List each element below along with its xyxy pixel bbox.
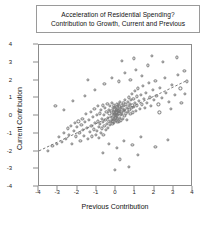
scatter-point xyxy=(99,108,102,111)
scatter-point xyxy=(159,86,162,89)
scatter-point xyxy=(51,145,54,148)
scatter-point xyxy=(69,124,72,127)
scatter-point xyxy=(66,127,69,130)
scatter-point xyxy=(108,142,111,145)
scatter-point xyxy=(101,152,104,155)
y-tick-label: 2 xyxy=(0,77,12,83)
y-tick-label: -4 xyxy=(0,183,12,189)
scatter-point xyxy=(184,92,187,95)
scatter-point xyxy=(183,69,186,72)
y-tick-label: 4 xyxy=(0,41,12,47)
scatter-point xyxy=(97,137,100,140)
scatter-point xyxy=(86,137,89,140)
scatter-point xyxy=(138,99,141,102)
scatter-point xyxy=(138,107,141,110)
scatter-point xyxy=(62,108,65,111)
scatter-point xyxy=(133,57,136,60)
y-tick-label: -3 xyxy=(0,165,12,171)
x-tick-mark xyxy=(115,186,116,191)
scatter-point xyxy=(93,89,96,92)
scatter-point xyxy=(147,82,150,85)
scatter-point xyxy=(175,56,178,59)
scatter-point xyxy=(162,60,165,63)
scatter-point xyxy=(127,165,130,168)
scatter-point xyxy=(102,133,105,136)
scatter-point xyxy=(91,115,94,118)
scatter-point xyxy=(75,125,78,128)
y-tick-label: 3 xyxy=(0,59,12,65)
scatter-point xyxy=(129,78,132,81)
scatter-point xyxy=(186,80,189,83)
scatter-points xyxy=(39,45,191,185)
scatter-point xyxy=(133,90,136,93)
scatter-point xyxy=(123,71,126,74)
scatter-point xyxy=(148,96,151,99)
scatter-point xyxy=(80,123,83,126)
scatter-point xyxy=(93,107,96,110)
scatter-point xyxy=(84,94,87,97)
scatter-point xyxy=(117,80,120,83)
scatter-point xyxy=(180,101,183,104)
scatter-point xyxy=(179,87,182,90)
scatter-point xyxy=(141,84,144,87)
chart-subtitle: Contribution to Growth, Current and Prev… xyxy=(51,19,185,28)
scatter-point xyxy=(161,97,164,100)
scatter-point xyxy=(89,110,92,113)
scatter-point xyxy=(113,169,116,172)
chart-title-box: Acceleration of Residential Spending? Co… xyxy=(36,5,200,33)
scatter-point xyxy=(121,117,124,120)
scatter-point xyxy=(139,93,142,96)
scatter-point xyxy=(83,134,86,137)
scatter-point xyxy=(88,130,91,133)
x-tick-mark xyxy=(172,186,173,191)
scatter-point xyxy=(81,117,84,120)
scatter-point xyxy=(62,131,65,134)
scatter-point xyxy=(58,136,61,139)
scatter-point xyxy=(136,104,139,107)
scatter-point xyxy=(67,133,70,136)
scatter-point xyxy=(71,99,74,102)
scatter-point xyxy=(154,145,157,148)
scatter-point xyxy=(137,87,140,90)
scatter-point xyxy=(94,133,97,136)
y-tick-label: -2 xyxy=(0,148,12,154)
scatter-point xyxy=(150,54,153,57)
scatter-point xyxy=(77,120,80,123)
y-tick-label: -1 xyxy=(0,130,12,136)
x-tick-mark xyxy=(153,186,154,191)
x-tick-mark xyxy=(134,186,135,191)
scatter-point xyxy=(137,153,140,156)
scatter-point xyxy=(176,74,179,77)
scatter-point xyxy=(102,114,105,117)
scatter-point xyxy=(158,111,161,114)
scatter-point xyxy=(54,105,57,108)
scatter-point xyxy=(104,129,107,132)
scatter-point xyxy=(135,95,138,98)
scatter-point xyxy=(46,149,49,152)
scatter-point xyxy=(101,127,104,130)
scatter-point xyxy=(87,118,90,121)
scatter-point xyxy=(64,137,67,140)
y-tick-label: 0 xyxy=(0,112,12,118)
scatter-point xyxy=(135,68,138,71)
scatter-point xyxy=(143,106,146,109)
scatter-point xyxy=(173,93,176,96)
scatter-point xyxy=(120,59,123,62)
scatter-point xyxy=(107,126,110,129)
x-tick-mark xyxy=(57,186,58,191)
scatter-point xyxy=(79,139,82,142)
scatter-point xyxy=(152,98,155,101)
scatter-point xyxy=(56,142,59,145)
scatter-point xyxy=(86,78,89,81)
scatter-point xyxy=(167,100,170,103)
plot-area xyxy=(38,44,192,186)
scatter-point xyxy=(98,112,101,115)
y-tick-label: 1 xyxy=(0,94,12,100)
scatter-point xyxy=(166,138,169,141)
scatter-point xyxy=(170,83,173,86)
scatter-point xyxy=(84,121,87,124)
scatter-point xyxy=(70,142,73,145)
scatter-point xyxy=(122,139,125,142)
scatter-point xyxy=(111,76,114,79)
scatter-point xyxy=(155,94,158,97)
